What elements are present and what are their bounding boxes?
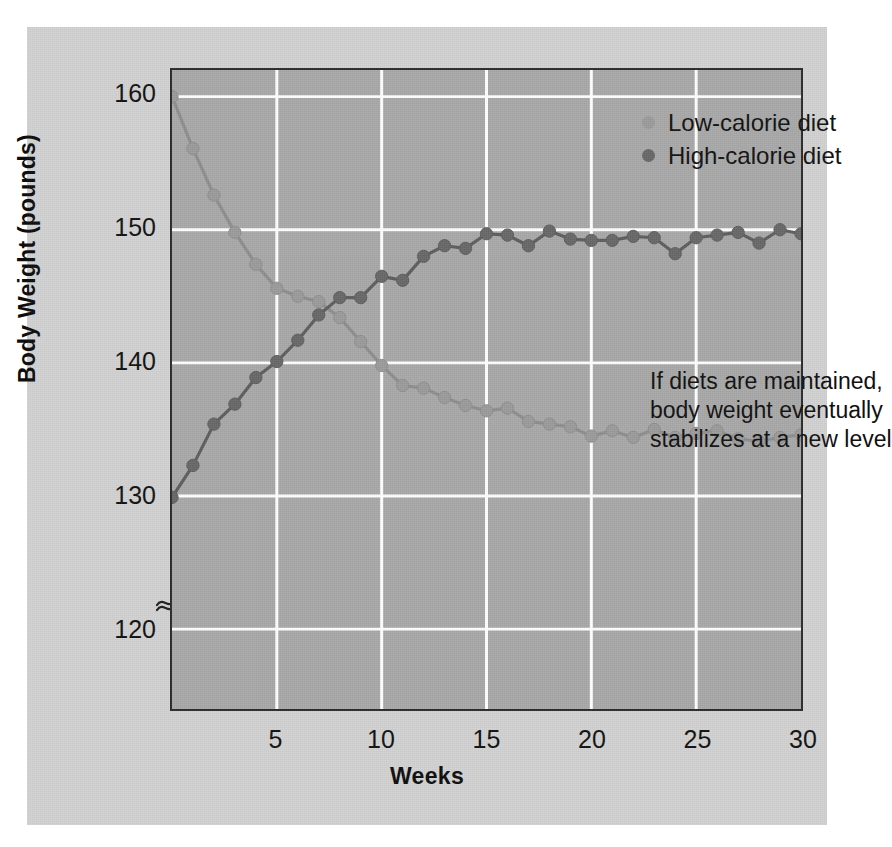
y-axis-title: Body Weight (pounds) xyxy=(14,134,41,383)
data-point xyxy=(606,425,618,437)
data-point xyxy=(355,335,367,347)
legend-marker-low-calorie xyxy=(642,116,655,129)
data-point xyxy=(501,229,513,241)
legend-item-high-calorie[interactable]: High-calorie diet xyxy=(642,139,841,172)
data-point xyxy=(292,290,304,302)
data-point xyxy=(417,250,429,262)
data-point xyxy=(187,142,199,154)
data-point xyxy=(543,225,555,237)
chart-annotation: If diets are maintained, body weight eve… xyxy=(650,367,892,454)
data-point xyxy=(459,242,471,254)
data-point xyxy=(208,189,220,201)
data-point xyxy=(271,355,283,367)
data-point xyxy=(711,229,723,241)
data-point xyxy=(229,398,241,410)
legend: Low-calorie diet High-calorie diet xyxy=(642,106,841,172)
y-tick-label: 120 xyxy=(36,615,156,644)
plot-area: Low-calorie diet High-calorie diet If di… xyxy=(170,68,803,711)
data-point xyxy=(522,415,534,427)
data-point xyxy=(522,240,534,252)
data-point xyxy=(564,233,576,245)
data-point xyxy=(480,405,492,417)
data-point xyxy=(313,309,325,321)
data-point xyxy=(627,431,639,443)
data-point xyxy=(648,232,660,244)
y-tick-label: 140 xyxy=(36,347,156,376)
data-point xyxy=(334,311,346,323)
data-point xyxy=(250,371,262,383)
data-point xyxy=(208,418,220,430)
data-point xyxy=(376,359,388,371)
y-tick-label: 150 xyxy=(36,213,156,242)
data-point xyxy=(313,295,325,307)
data-point xyxy=(396,379,408,391)
legend-label-low-calorie: Low-calorie diet xyxy=(668,109,836,137)
x-tick-label: 20 xyxy=(552,725,632,754)
data-point xyxy=(543,418,555,430)
data-point xyxy=(753,237,765,249)
data-point xyxy=(459,399,471,411)
x-tick-label: 30 xyxy=(763,725,843,754)
data-point xyxy=(585,234,597,246)
data-point xyxy=(585,430,597,442)
data-point xyxy=(606,234,618,246)
data-point xyxy=(669,248,681,260)
data-point xyxy=(250,258,262,270)
data-point xyxy=(292,334,304,346)
data-point xyxy=(480,228,492,240)
x-tick-label: 10 xyxy=(341,725,421,754)
figure-panel: Body Weight (pounds) Weeks Low-calorie d… xyxy=(27,27,827,825)
data-point xyxy=(438,240,450,252)
data-point xyxy=(438,391,450,403)
data-point xyxy=(732,226,744,238)
x-tick-label: 5 xyxy=(236,725,316,754)
x-tick-label: 15 xyxy=(447,725,527,754)
annotation-line-3: stabilizes at a new level xyxy=(650,425,892,454)
data-point xyxy=(501,402,513,414)
legend-item-low-calorie[interactable]: Low-calorie diet xyxy=(642,106,841,139)
data-point xyxy=(355,291,367,303)
legend-marker-high-calorie xyxy=(642,149,655,162)
data-point xyxy=(334,291,346,303)
annotation-line-1: If diets are maintained, xyxy=(650,367,892,396)
data-point xyxy=(396,274,408,286)
annotation-line-2: body weight eventually xyxy=(650,396,892,425)
data-point xyxy=(376,270,388,282)
data-point xyxy=(271,282,283,294)
data-point xyxy=(229,226,241,238)
data-point xyxy=(627,230,639,242)
data-point xyxy=(690,232,702,244)
y-tick-label: 130 xyxy=(36,481,156,510)
legend-label-high-calorie: High-calorie diet xyxy=(668,142,841,170)
data-point xyxy=(564,421,576,433)
data-point xyxy=(774,224,786,236)
y-tick-label: 160 xyxy=(36,79,156,108)
x-tick-label: 25 xyxy=(658,725,738,754)
data-point xyxy=(417,382,429,394)
x-axis-title: Weeks xyxy=(27,763,827,790)
data-point xyxy=(187,459,199,471)
data-point xyxy=(172,491,178,503)
data-point xyxy=(172,90,178,102)
